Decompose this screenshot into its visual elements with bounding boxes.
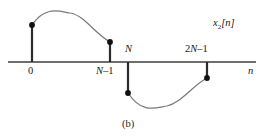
signal-figure: 0 N–1 N 2N–1 n x2[n] (b) (0, 0, 269, 140)
negative-lobe-envelope (128, 78, 207, 108)
tick-label-2n-minus-1: 2N–1 (185, 44, 208, 55)
marker-0 (29, 22, 35, 28)
tick-label-0: 0 (28, 66, 33, 77)
signal-name-label: x2[n] (213, 18, 235, 31)
marker-n-minus-1 (107, 39, 113, 45)
tick-label-n-minus-1: N–1 (96, 66, 114, 77)
tick-label-n-minus-1-italic: N (96, 65, 103, 76)
marker-n (125, 90, 131, 96)
axis-name-label: n (248, 66, 253, 77)
signal-name-suffix: [n] (221, 17, 234, 28)
marker-2n-minus-1 (204, 75, 210, 81)
tick-label-n-minus-1-rest: –1 (103, 65, 114, 76)
tick-label-n: N (125, 44, 132, 55)
figure-caption: (b) (122, 119, 134, 130)
tick-label-2n-minus-1-rest: –1 (197, 43, 208, 54)
positive-lobe-envelope (32, 11, 110, 42)
